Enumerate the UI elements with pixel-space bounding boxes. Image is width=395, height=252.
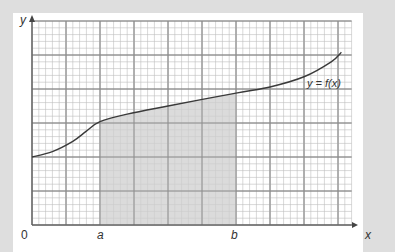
origin-label: 0 [21,229,28,241]
b-label: b [231,229,238,241]
x-axis-arrow-icon [352,222,358,228]
area-under-curve-graph [0,0,395,252]
curve-label: y = f(x) [307,78,341,89]
x-axis-label: x [365,229,371,241]
y-axis-arrow-icon [29,15,35,22]
a-label: a [97,229,104,241]
y-axis-label: y [20,14,26,26]
